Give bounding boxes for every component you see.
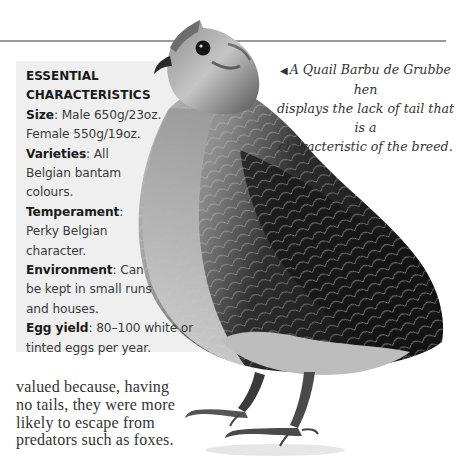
caption-line: characteristic of the breed. [270,137,461,156]
fact-size: Size: Male 650g/23oz. [26,106,226,125]
body-line: predators such as foxes. [16,431,186,449]
caption-line: displays the lack of tail that is a [270,99,461,137]
fact-egg-yield: Egg yield: 80–100 white or [26,319,226,338]
bird-foot-left [185,409,248,418]
body-line: no tails, they were more [16,396,186,414]
facts-heading: CHARACTERISTICS [26,86,226,105]
photo-caption: ◀A Quail Barbu de Grubbe hen displays th… [270,60,461,156]
bird-leg-left [238,372,265,412]
fact-text: Perky Belgian [26,222,226,241]
fact-label: Temperament [26,205,119,219]
fact-label: Varieties [26,147,86,161]
fact-label: Egg yield [26,321,88,335]
facts-heading: ESSENTIAL [26,67,226,86]
fact-text: colours. [26,183,226,202]
fact-environment: Environment: Can [26,261,226,280]
fact-label: Size [26,108,54,122]
fact-text: Belgian bantam [26,164,226,183]
body-line: likely to escape from [16,414,186,432]
fact-temperament: Temperament: [26,203,226,222]
body-paragraph: valued because, having no tails, they we… [16,378,186,449]
body-line: valued because, having [16,378,186,396]
fact-varieties: Varieties: All [26,145,226,164]
fact-text: character. [26,242,226,261]
fact-label: Environment [26,263,113,277]
bird-eye [196,41,211,56]
left-arrow-icon: ◀ [280,65,288,76]
fact-text: Female 550g/19oz. [26,125,226,144]
essential-characteristics: ESSENTIAL CHARACTERISTICS Size: Male 650… [26,67,226,358]
fact-text: and houses. [26,300,226,319]
fact-text: be kept in small runs [26,280,226,299]
caption-line: ◀A Quail Barbu de Grubbe hen [270,60,461,99]
bird-leg-right [290,372,315,428]
fact-text: tinted eggs per year. [26,339,226,358]
bird-shadow [205,444,345,456]
